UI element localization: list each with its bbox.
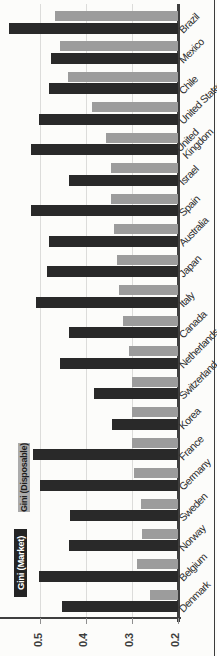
country-label-denmark: Denmark [177,580,211,614]
country-label-germany: Germany [177,457,212,492]
bar-market-germany [40,480,177,491]
country-label-korea: Korea [177,406,202,431]
tick-0-5 [40,618,41,624]
tick-label-0-4: 0.4 [78,634,89,648]
country-label-brazil: Brazil [177,12,200,35]
bar-disposable-germany [134,468,177,478]
country-label-norway: Norway [177,523,207,553]
gridline-0-5 [40,4,41,617]
bar-market-mexico [51,53,177,64]
bar-disposable-canada [123,316,178,326]
bar-market-japan [47,266,177,277]
country-label-sweden: Sweden [177,491,208,522]
bar-disposable-united-kingdom [106,133,178,143]
legend-item-gini-market: Gini (Market) [14,529,27,597]
tick-label-0-3: 0.3 [124,634,135,648]
bar-market-france [33,449,178,460]
bar-market-chile [49,83,178,94]
bar-disposable-denmark [150,590,178,600]
bar-market-denmark [62,601,178,612]
bar-disposable-norway [142,529,177,539]
country-label-spain: Spain [177,194,201,218]
bar-disposable-switzerland [132,377,177,387]
bar-market-norway [69,540,177,551]
bar-market-spain [31,205,178,216]
bar-disposable-belgium [137,559,177,569]
bar-disposable-japan [117,255,178,265]
bar-market-united-kingdom [31,144,177,155]
bar-market-belgium [39,571,178,582]
bar-disposable-italy [119,285,178,295]
bar-market-canada [69,327,177,338]
bar-disposable-brazil [55,11,177,21]
bar-market-brazil [9,23,178,34]
bar-market-italy [36,297,177,308]
country-label-japan: Japan [177,254,202,279]
bar-market-australia [49,236,178,247]
country-label-france: France [177,434,205,462]
bar-disposable-united-states [92,102,178,112]
bar-disposable-korea [132,407,177,417]
bar-disposable-france [132,438,177,448]
tick-0-3 [132,618,133,624]
country-label-mexico: Mexico [177,37,205,65]
bar-market-switzerland [94,388,178,399]
bar-market-korea [112,419,178,430]
tick-label-0-5: 0.5 [33,634,44,648]
gini-bar-chart-figure: 0.50.40.30.20.6BrazilMexicoChileUnited S… [0,0,217,656]
bar-disposable-chile [68,72,178,82]
country-label-australia: Australia [177,216,209,248]
country-label-israel: Israel [177,165,200,188]
bar-market-united-states [39,114,177,125]
gridline-0-3 [132,4,133,617]
tick-label-0-2: 0.2 [170,634,181,648]
value-axis-line [0,617,181,619]
country-label-chile: Chile [177,74,199,96]
bar-disposable-sweden [141,499,177,509]
bar-disposable-netherlands [129,346,177,356]
tick-0-4 [86,618,87,624]
bar-disposable-mexico [60,41,177,51]
gridline-0-4 [86,4,87,617]
tick-0-2 [178,618,179,624]
figure-edge-rule [214,0,216,656]
bar-market-netherlands [60,358,177,369]
bar-disposable-israel [111,163,177,173]
bar-disposable-australia [114,224,177,234]
bar-market-sweden [70,510,177,521]
bar-market-israel [69,175,178,186]
legend-item-gini-disposable: Gini (Disposable) [18,443,30,512]
bar-disposable-spain [111,194,177,204]
